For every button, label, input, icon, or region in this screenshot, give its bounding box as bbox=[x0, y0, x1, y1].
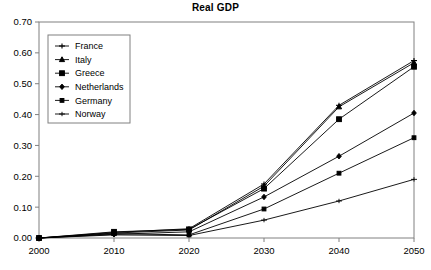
x-axis-tick-label: 2010 bbox=[103, 245, 124, 256]
y-axis-tick-label: 0.40 bbox=[14, 109, 33, 120]
data-point-marker bbox=[411, 177, 417, 181]
data-point-marker bbox=[60, 99, 64, 103]
series-line bbox=[39, 138, 414, 238]
x-axis-tick-label: 2020 bbox=[178, 245, 199, 256]
series-netherlands bbox=[37, 110, 417, 240]
y-axis-tick-label: 0.20 bbox=[14, 171, 33, 182]
chart-legend: FranceItalyGreeceNetherlandsGermanyNorwa… bbox=[48, 35, 130, 123]
data-point-marker bbox=[412, 110, 417, 115]
data-point-marker bbox=[337, 171, 341, 175]
data-point-marker bbox=[337, 154, 342, 159]
legend-item-label: France bbox=[75, 41, 103, 51]
legend-item-label: Italy bbox=[75, 55, 92, 65]
x-axis-tick-label: 2040 bbox=[328, 245, 349, 256]
data-point-marker bbox=[336, 199, 342, 203]
x-axis-tick-label: 2000 bbox=[28, 245, 49, 256]
legend-item-label: Greece bbox=[75, 68, 105, 78]
data-point-marker bbox=[261, 218, 267, 222]
data-point-marker bbox=[412, 64, 417, 69]
y-axis-tick-label: 0.50 bbox=[14, 78, 33, 89]
data-point-marker bbox=[337, 117, 342, 122]
data-point-marker bbox=[60, 71, 65, 76]
y-axis-tick-label: 0.70 bbox=[14, 16, 33, 27]
chart-container: Real GDP 0.700.600.500.400.300.200.100.0… bbox=[0, 0, 431, 270]
chart-plot-area: 0.700.600.500.400.300.200.100.0020002010… bbox=[0, 0, 431, 270]
data-point-marker bbox=[262, 207, 266, 211]
legend-item-label: Netherlands bbox=[75, 82, 124, 92]
legend-item-label: Germany bbox=[75, 96, 113, 106]
x-axis-tick-label: 2030 bbox=[253, 245, 274, 256]
y-axis-tick-label: 0.00 bbox=[14, 232, 33, 243]
series-line bbox=[39, 113, 414, 238]
legend-item-label: Norway bbox=[75, 109, 106, 119]
data-point-marker bbox=[262, 186, 267, 191]
series-germany bbox=[37, 136, 416, 240]
data-point-marker bbox=[412, 136, 416, 140]
y-axis-tick-label: 0.30 bbox=[14, 140, 33, 151]
x-axis-tick-label: 2050 bbox=[403, 245, 424, 256]
y-axis-tick-label: 0.10 bbox=[14, 202, 33, 213]
y-axis-tick-label: 0.60 bbox=[14, 47, 33, 58]
data-point-marker bbox=[262, 194, 267, 199]
